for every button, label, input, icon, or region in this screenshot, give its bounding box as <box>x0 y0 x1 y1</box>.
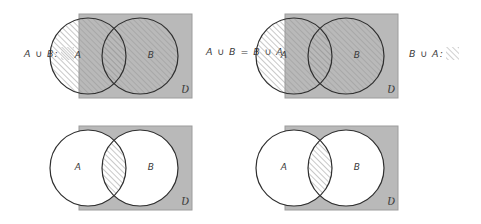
venn-diagram-a-union-b: A B Ʋ <box>0 0 240 112</box>
circle-a-label: A <box>74 162 82 172</box>
venn-diagram-a-inter-b: A B Ʋ <box>0 112 240 224</box>
circle-b-label: B <box>354 162 361 172</box>
panel-b-union-a: A B Ʋ <box>241 0 481 112</box>
universe-symbol: Ʋ <box>181 195 189 208</box>
panel-b-inter-a: A B Ʋ <box>241 112 481 224</box>
venn-diagram-b-union-a: A B Ʋ <box>241 0 481 112</box>
universe-symbol: Ʋ <box>387 195 395 208</box>
panel-a-union-b: A B Ʋ <box>0 0 240 112</box>
universe-symbol: Ʋ <box>181 83 189 96</box>
panel-a-inter-b: A B Ʋ <box>0 112 240 224</box>
union-row: A ∪ B: A ∪ B = B ∪ A B ∪ A: A B <box>0 0 481 112</box>
circle-b-label: B <box>148 50 155 60</box>
circle-b-label: B <box>148 162 155 172</box>
intersection-row: A ∩ B: A ∩ B = B ∩ A B ∩ A: <box>0 112 481 224</box>
circle-a-label: A <box>74 50 82 60</box>
circle-a-label: A <box>280 162 288 172</box>
universe-symbol: Ʋ <box>387 83 395 96</box>
venn-diagram-b-inter-a: A B Ʋ <box>241 112 481 224</box>
circle-a-label: A <box>280 50 288 60</box>
figure-sheet: A ∪ B: A ∪ B = B ∪ A B ∪ A: A B <box>0 0 481 224</box>
circle-b-label: B <box>354 50 361 60</box>
